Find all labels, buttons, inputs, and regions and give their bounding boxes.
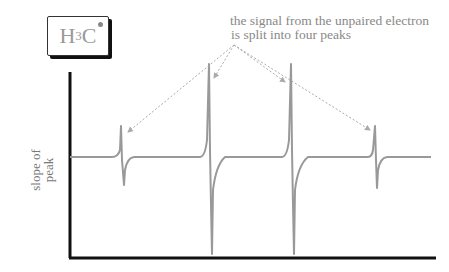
spectrum-trace xyxy=(70,64,431,254)
esr-spectrum xyxy=(0,0,449,272)
annotation-arrows xyxy=(128,45,370,132)
